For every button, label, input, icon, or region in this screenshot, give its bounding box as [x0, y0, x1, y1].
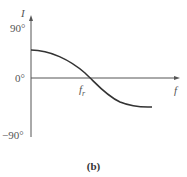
y-axis-arrow-icon — [29, 15, 33, 21]
tick-90: 90° — [10, 23, 25, 34]
y-axis-label: I — [21, 8, 25, 19]
phase-chart — [0, 0, 187, 177]
tick-0: 0° — [15, 73, 25, 84]
tick-neg90: −90° — [2, 130, 24, 141]
resonance-sub: r — [82, 89, 85, 98]
x-axis-arrow-icon — [174, 76, 180, 80]
resonance-label: fr — [79, 84, 85, 98]
phase-curve — [31, 50, 152, 107]
figure-caption: (b) — [0, 160, 187, 172]
x-axis-label: f — [174, 85, 177, 96]
